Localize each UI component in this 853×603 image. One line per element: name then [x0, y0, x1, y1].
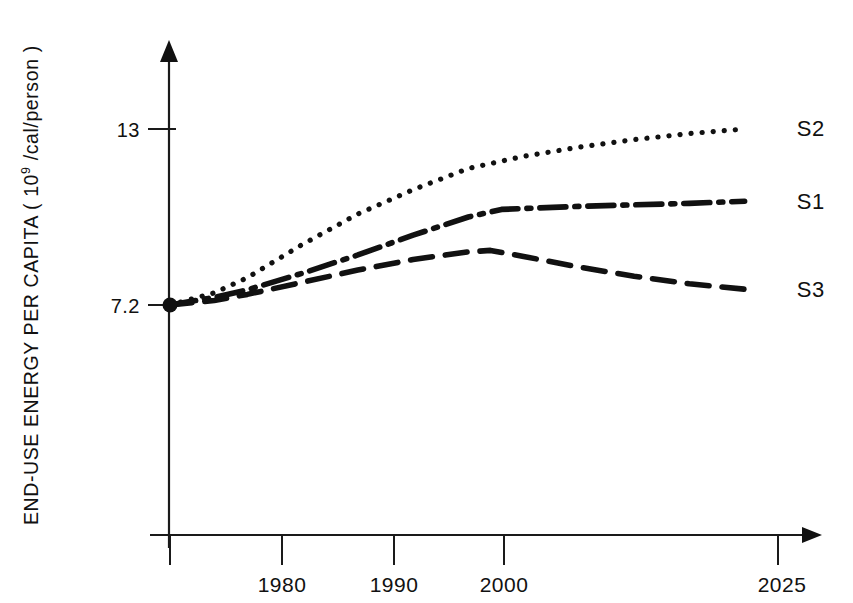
- origin-data-point-marker: [163, 298, 178, 313]
- y-axis-title: END-USE ENERGY PER CAPITA ( 109 /cal/per…: [19, 45, 42, 525]
- series-label-s1: S1: [797, 189, 825, 214]
- series-label-s3: S3: [797, 277, 825, 302]
- chart-figure: 13 7.2 1980 1990 2000 2025 END-USE ENERG…: [0, 0, 853, 603]
- line-chart: 13 7.2 1980 1990 2000 2025 END-USE ENERG…: [0, 0, 853, 603]
- x-tick-label-2025: 2025: [758, 573, 807, 596]
- y-axis-title-pre: END-USE ENERGY PER CAPITA ( 10: [20, 174, 42, 525]
- series-labels: S2S1S3: [797, 116, 825, 303]
- y-tick-label-13: 13: [117, 119, 140, 141]
- series-layer: [170, 129, 745, 305]
- x-axis-arrow-icon: [802, 527, 822, 543]
- y-axis-title-post: /cal/person ): [20, 45, 42, 166]
- svg-text:END-USE ENERGY PER CAPITA ( 10: END-USE ENERGY PER CAPITA ( 109 /cal/per…: [19, 45, 42, 525]
- y-axis-arrow-icon: [160, 40, 178, 62]
- x-tick-label-1980: 1980: [258, 573, 307, 596]
- x-tick-label-1990: 1990: [370, 573, 419, 596]
- series-line-s3: [170, 250, 745, 305]
- y-tick-label-7-2: 7.2: [111, 295, 140, 317]
- y-axis-title-exponent: 9: [19, 166, 33, 174]
- x-tick-label-2000: 2000: [480, 573, 529, 596]
- series-label-s2: S2: [797, 116, 825, 141]
